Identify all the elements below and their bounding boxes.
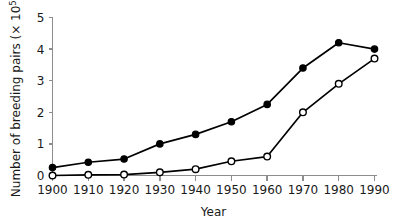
x-tick-label: 1990 xyxy=(359,183,390,197)
x-axis-tick-labels: 1900191019201930194019501960197019801990 xyxy=(37,183,390,197)
series-markers-open-circles xyxy=(49,55,378,179)
x-axis-title: Year xyxy=(200,205,226,219)
x-tick-label: 1980 xyxy=(323,183,354,197)
x-tick-label: 1970 xyxy=(288,183,319,197)
data-point xyxy=(85,159,91,165)
data-point xyxy=(264,101,270,107)
y-tick-label: 4 xyxy=(37,43,45,57)
data-point xyxy=(335,81,342,88)
data-point xyxy=(336,40,342,46)
y-tick-label: 1 xyxy=(37,137,45,151)
y-tick-label: 2 xyxy=(37,106,45,120)
data-point xyxy=(371,46,377,52)
data-point xyxy=(121,171,128,178)
series-markers-filled-circles xyxy=(49,40,377,171)
data-point xyxy=(192,131,198,137)
data-point xyxy=(157,141,163,147)
data-point xyxy=(264,153,271,160)
data-point xyxy=(157,169,164,176)
x-tick-label: 1910 xyxy=(73,183,104,197)
x-tick-label: 1900 xyxy=(37,183,68,197)
y-tick-label: 5 xyxy=(37,11,45,25)
y-axis-tick-labels: 012345 xyxy=(37,11,45,183)
series-line-open-circles xyxy=(53,59,375,176)
x-tick-label: 1960 xyxy=(252,183,283,197)
y-tick-label: 3 xyxy=(37,74,45,88)
x-tick-label: 1920 xyxy=(109,183,140,197)
x-tick-label: 1940 xyxy=(180,183,211,197)
data-point xyxy=(85,172,92,179)
data-point xyxy=(49,164,55,170)
data-point xyxy=(371,55,378,62)
series-line-filled-circles xyxy=(53,43,375,168)
x-tick-label: 1950 xyxy=(216,183,247,197)
y-axis-title-tail: ) xyxy=(9,0,23,1)
data-point xyxy=(121,156,127,162)
data-series-layer xyxy=(49,40,378,179)
data-point xyxy=(300,65,306,71)
y-tick-label: 0 xyxy=(37,169,45,183)
y-axis-title: Number of breeding pairs (× 105) xyxy=(9,0,23,197)
data-point xyxy=(300,109,307,116)
data-point xyxy=(192,166,199,173)
x-tick-label: 1930 xyxy=(145,183,176,197)
chart-figure: 012345 190019101920193019401950196019701… xyxy=(0,0,397,221)
data-point xyxy=(49,172,56,179)
line-chart: 012345 190019101920193019401950196019701… xyxy=(0,0,397,221)
data-point xyxy=(228,119,234,125)
y-axis-title-text: Number of breeding pairs (× 10 xyxy=(9,6,23,198)
data-point xyxy=(228,158,235,165)
